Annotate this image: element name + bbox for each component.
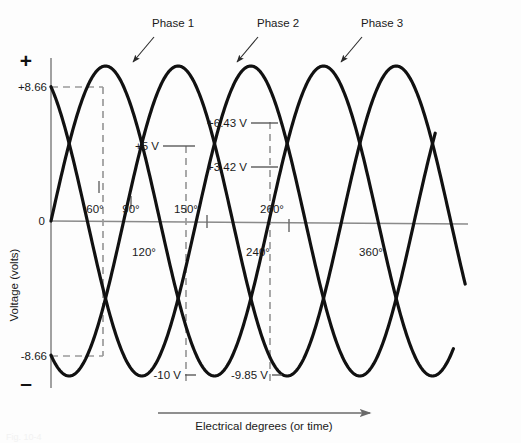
degree-label-240: 240° <box>246 246 270 258</box>
value-label-minus-985v: -9.85 V <box>231 369 268 381</box>
degree-label-120: 120° <box>132 246 156 258</box>
degree-label-150: 150° <box>174 203 198 215</box>
callout-arrow-phase-3 <box>341 37 362 62</box>
value-label-plus-342v: +3.42 V <box>207 161 247 173</box>
y-tick-label-plus-866: +8.66 <box>18 81 47 93</box>
phase-label-2: Phase 2 <box>257 17 299 29</box>
y-tick-label-minus-866: -8.66 <box>21 350 47 362</box>
value-label-minus-10v: -10 V <box>154 369 182 381</box>
degree-label-360: 360° <box>359 246 383 258</box>
axis-group <box>51 58 468 388</box>
waveform-chart: Phase 1 Phase 2 Phase 3 60° 90° 150° 260… <box>0 0 521 443</box>
phase-label-1: Phase 1 <box>152 17 194 29</box>
callout-arrow-phase-2 <box>237 37 258 62</box>
phase-label-group: Phase 1 Phase 2 Phase 3 <box>152 17 403 29</box>
degree-label-260: 260° <box>260 203 284 215</box>
y-axis-title: Voltage (volts) <box>8 248 20 321</box>
y-axis-label-group: + – +8.66 -8.66 0 Voltage (volts) <box>8 49 47 394</box>
positive-sign-label: + <box>20 49 32 72</box>
x-axis-zero-line <box>51 221 468 224</box>
figure-root: Phase 1 Phase 2 Phase 3 60° 90° 150° 260… <box>0 0 521 443</box>
value-label-plus-5v: +5 V <box>135 140 159 152</box>
callout-arrow-phase-1 <box>133 37 154 62</box>
value-label-plus-643v: +6.43 V <box>207 117 247 129</box>
figure-caption-ghost: Fig. 10-4 <box>6 432 42 442</box>
degree-label-60: 60° <box>86 203 103 215</box>
phase-callout-arrows <box>133 37 362 62</box>
degree-label-90: 90° <box>122 203 139 215</box>
x-axis-title: Electrical degrees (or time) <box>195 420 333 432</box>
y-tick-label-zero: 0 <box>39 215 45 227</box>
negative-sign-label: – <box>20 371 32 394</box>
phase-label-3: Phase 3 <box>361 17 403 29</box>
